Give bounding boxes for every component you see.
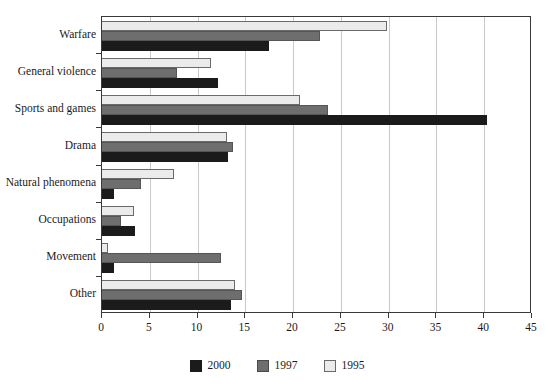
y-axis-label-general-violence: General violence [0,66,96,78]
legend-label-1995: 1995 [342,360,365,372]
x-axis-label-5: 5 [134,321,164,333]
legend-swatch-1997 [257,360,269,372]
bar-1995-other [102,280,235,290]
y-axis-tick [96,276,101,277]
x-axis-label-10: 10 [182,321,212,333]
bar-2000-drama [102,152,228,162]
bar-2000-general-violence [102,78,218,88]
y-axis-label-sports-and-games: Sports and games [0,103,96,115]
legend-item-1995: 1995 [324,360,365,372]
bar-2000-occupations [102,226,135,236]
x-axis-label-15: 15 [229,321,259,333]
bar-group [102,17,530,54]
legend-swatch-1995 [324,360,336,372]
bar-1995-drama [102,132,227,142]
bar-1997-other [102,290,242,300]
legend-item-2000: 2000 [190,360,231,372]
bar-1997-general-violence [102,68,177,78]
x-axis-tick-10 [197,313,198,318]
x-axis-tick-5 [149,313,150,318]
bar-chart: WarfareGeneral violenceSports and gamesD… [0,0,554,388]
x-axis-label-25: 25 [325,321,355,333]
bar-2000-natural-phenomena [102,189,114,199]
x-axis-label-0: 0 [86,321,116,333]
bar-2000-sports-and-games [102,115,487,125]
x-axis-tick-0 [101,313,102,318]
x-axis-tick-30 [388,313,389,318]
bar-1995-general-violence [102,58,211,68]
y-axis-label-other: Other [0,288,96,300]
legend-label-2000: 2000 [208,360,231,372]
x-axis-tick-35 [435,313,436,318]
bar-2000-other [102,300,231,310]
y-axis-label-natural-phenomena: Natural phenomena [0,177,96,189]
y-axis-tick [96,90,101,91]
bar-1997-occupations [102,216,121,226]
y-axis-label-drama: Drama [0,140,96,152]
bar-group [102,128,530,165]
bar-1997-sports-and-games [102,105,328,115]
bar-1995-natural-phenomena [102,169,174,179]
bar-1995-sports-and-games [102,95,300,105]
y-axis-tick [96,239,101,240]
x-axis-tick-25 [340,313,341,318]
bar-group [102,166,530,203]
bar-2000-warfare [102,41,269,51]
bar-1995-warfare [102,21,387,31]
y-axis-tick [96,165,101,166]
bar-1997-warfare [102,31,320,41]
legend-swatch-2000 [190,360,202,372]
bar-group [102,91,530,128]
chart-legend: 200019971995 [0,360,554,372]
x-axis-label-30: 30 [373,321,403,333]
x-axis-label-35: 35 [420,321,450,333]
y-axis-tick [96,53,101,54]
x-axis-label-40: 40 [468,321,498,333]
y-axis-label-movement: Movement [0,251,96,263]
x-axis-tick-15 [244,313,245,318]
bar-group [102,203,530,240]
bar-group [102,240,530,277]
legend-label-1997: 1997 [275,360,298,372]
bar-1995-occupations [102,206,134,216]
bar-1995-movement [102,243,108,253]
bar-1997-natural-phenomena [102,179,141,189]
x-axis-tick-45 [531,313,532,318]
y-axis-label-occupations: Occupations [0,214,96,226]
bar-2000-movement [102,263,114,273]
x-axis-label-20: 20 [277,321,307,333]
bar-group [102,277,530,314]
legend-item-1997: 1997 [257,360,298,372]
x-axis-tick-40 [483,313,484,318]
y-axis-tick [96,127,101,128]
bar-1997-movement [102,253,221,263]
y-axis-label-warfare: Warfare [0,29,96,41]
plot-area [101,16,531,313]
bar-group [102,54,530,91]
y-axis-tick [96,202,101,203]
x-axis-tick-20 [292,313,293,318]
x-axis-label-45: 45 [516,321,546,333]
bar-1997-drama [102,142,233,152]
